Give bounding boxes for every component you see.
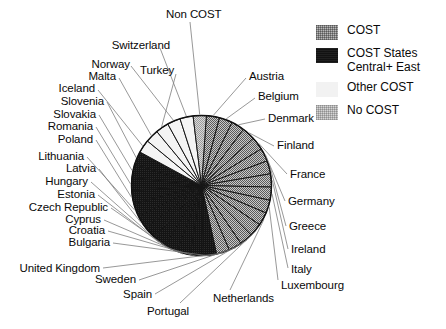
leader-line (269, 207, 278, 280)
legend: COST COST States Central+ East Other COS… (316, 24, 442, 127)
label-turkey: Turkey (140, 64, 174, 76)
label-netherlands: Netherlands (213, 292, 274, 304)
leader-line (98, 90, 143, 146)
label-romania: Romania (0, 120, 93, 132)
label-denmark: Denmark (268, 112, 314, 124)
label-luxembourg: Luxembourg (281, 279, 344, 291)
label-austria: Austria (249, 70, 284, 82)
label-non-cost: Non COST (166, 8, 221, 20)
label-hungary: Hungary (0, 175, 88, 187)
legend-item-other-cost[interactable]: Other COST (316, 81, 442, 97)
label-bulgaria: Bulgaria (0, 236, 110, 248)
legend-swatch-cost-icon (316, 25, 338, 40)
label-finland: Finland (277, 139, 314, 151)
leader-line (272, 180, 288, 249)
leader-line (99, 115, 132, 171)
label-malta: Malta (0, 70, 116, 82)
legend-label-other-cost: Other COST (347, 81, 414, 95)
label-spain: Spain (0, 288, 152, 300)
leader-line (238, 119, 265, 125)
label-switzerland: Switzerland (0, 39, 170, 51)
leader-line (96, 127, 131, 184)
leader-line (119, 78, 151, 135)
label-france: France (290, 168, 325, 180)
pie-slices (132, 116, 272, 256)
label-ireland: Ireland (291, 243, 325, 255)
chart-canvas: Non COST Switzerland Norway Malta Turkey… (0, 0, 446, 329)
label-norway: Norway (0, 58, 130, 70)
label-italy: Italy (291, 263, 312, 275)
label-portugal: Portugal (147, 305, 189, 317)
legend-label-no-cost: No COST (347, 104, 399, 118)
label-latvia: Latvia (0, 162, 96, 174)
label-czech-republic: Czech Republic (0, 201, 108, 213)
leader-line (190, 22, 200, 115)
label-estonia: Estonia (0, 188, 95, 200)
legend-item-cost-states-central-east[interactable]: COST States Central+ East (316, 47, 442, 74)
legend-swatch-other-icon (316, 82, 338, 97)
label-greece: Greece (289, 220, 326, 232)
label-slovakia: Slovakia (0, 108, 96, 120)
leader-line (96, 140, 132, 197)
label-germany: Germany (288, 195, 335, 207)
leader-line (226, 98, 255, 119)
legend-label-cost: COST (347, 24, 380, 38)
leader-line (160, 48, 186, 116)
label-croatia: Croatia (0, 224, 105, 236)
legend-label-cost-states-central-east: COST States Central+ East (347, 47, 420, 74)
legend-swatch-nocost-icon (316, 105, 338, 120)
legend-item-no-cost[interactable]: No COST (316, 104, 442, 120)
legend-swatch-east-icon (316, 48, 338, 63)
label-iceland: Iceland (0, 82, 95, 94)
leader-line (103, 253, 223, 268)
leader-line (162, 74, 176, 127)
label-slovenia: Slovenia (0, 95, 104, 107)
label-belgium: Belgium (258, 90, 299, 102)
label-lithuania: Lithuania (0, 150, 84, 162)
leader-line (107, 102, 136, 158)
legend-item-cost[interactable]: COST (316, 24, 442, 40)
label-poland: Poland (0, 133, 93, 145)
leader-line (213, 78, 246, 116)
label-sweden: Sweden (0, 273, 136, 285)
